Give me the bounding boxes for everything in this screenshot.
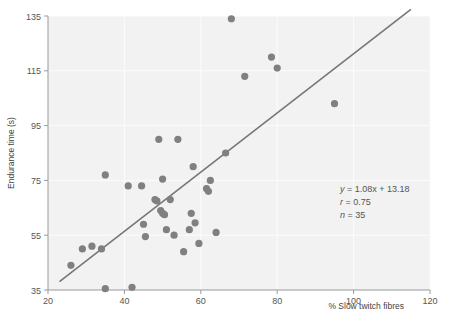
x-tick-label: 20 (43, 296, 53, 306)
data-point (140, 221, 147, 228)
y-axis-label: Endurance time (s) (6, 117, 16, 189)
y-tick-label: 135 (26, 12, 41, 22)
data-point (268, 54, 275, 61)
data-point (174, 136, 181, 143)
chart-svg: 20406080100120 35557595115135 % Slow twi… (0, 0, 452, 318)
data-point (98, 245, 105, 252)
y-tick-label: 35 (31, 286, 41, 296)
x-tick-label: 120 (422, 296, 437, 306)
plot-background (48, 16, 430, 290)
annotation-eq-3: = 35 (345, 210, 365, 220)
data-point (241, 73, 248, 80)
data-point (163, 226, 170, 233)
data-point (205, 188, 212, 195)
data-point (212, 229, 219, 236)
data-point (167, 196, 174, 203)
x-axis-label: % Slow twitch fibres (328, 301, 404, 311)
y-tick-label: 95 (31, 121, 41, 131)
data-point (161, 211, 168, 218)
x-tick-label: 80 (272, 296, 282, 306)
data-point (207, 177, 214, 184)
data-point (125, 182, 132, 189)
data-point (138, 182, 145, 189)
data-point (186, 226, 193, 233)
data-point (188, 210, 195, 217)
annotation-line-2: r = 0.75 (340, 197, 371, 207)
data-point (331, 100, 338, 107)
scatter-chart-figure: 20406080100120 35557595115135 % Slow twi… (0, 0, 452, 318)
x-tick-label: 40 (119, 296, 129, 306)
data-point (102, 285, 109, 292)
data-point (102, 171, 109, 178)
data-point (195, 240, 202, 247)
data-point (128, 284, 135, 291)
data-point (142, 233, 149, 240)
data-point (155, 136, 162, 143)
data-point (190, 163, 197, 170)
annotation-eq-1: = 1.08x + 13.18 (345, 184, 410, 194)
data-point (180, 248, 187, 255)
data-point (274, 64, 281, 71)
data-point (159, 175, 166, 182)
y-tick-label: 115 (27, 66, 41, 76)
data-point (88, 243, 95, 250)
y-tick-label: 75 (31, 176, 41, 186)
data-point (153, 197, 160, 204)
y-tick-labels: 35557595115135 (26, 12, 41, 296)
annotation-line-1: y = 1.08x + 13.18 (339, 184, 410, 194)
y-tick-label: 55 (31, 231, 41, 241)
data-point (191, 219, 198, 226)
x-tick-label: 60 (196, 296, 206, 306)
annotation-eq-2: = 0.75 (343, 197, 371, 207)
data-point (228, 15, 235, 22)
data-point (222, 149, 229, 156)
data-point (170, 232, 177, 239)
annotation-line-3: n = 35 (340, 210, 365, 220)
data-point (67, 262, 74, 269)
data-point (79, 245, 86, 252)
